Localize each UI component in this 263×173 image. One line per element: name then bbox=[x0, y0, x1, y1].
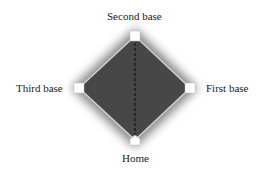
first-base-label: First base bbox=[206, 82, 248, 94]
second-base-label: Second base bbox=[107, 10, 162, 22]
first-base bbox=[185, 83, 195, 93]
third-base-label: Third base bbox=[16, 82, 63, 94]
home-label: Home bbox=[122, 152, 149, 164]
second-base bbox=[130, 31, 140, 41]
third-base bbox=[74, 83, 84, 93]
